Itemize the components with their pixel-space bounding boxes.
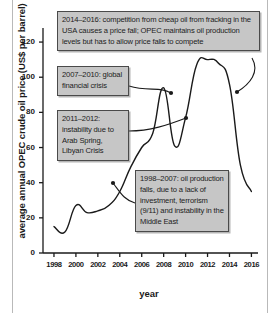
y-tick-label-0: 0 — [11, 248, 35, 257]
oil-price-line-chart: average annual OPEC crude oil price (US$… — [0, 0, 278, 313]
annotation-fracking-price-fall: 2014–2016: competition from cheap oil fr… — [57, 11, 260, 51]
y-tick-label-40: 40 — [11, 178, 35, 187]
annotation-arab-spring-libyan-crisis: 2011–2012: instability due to Arab Sprin… — [57, 110, 129, 161]
x-tick-label-2016: 2016 — [236, 260, 266, 269]
leader-line-fracking — [237, 58, 255, 92]
arrow-head-gfc — [169, 91, 173, 95]
annotation-production-falls-terrorism: 1998–2007: oil production falls, due to … — [135, 170, 229, 232]
arrow-head-arab-spring — [184, 116, 188, 120]
chart-page: average annual OPEC crude oil price (US$… — [0, 0, 278, 313]
x-axis-title: year — [43, 288, 255, 299]
annotation-global-financial-crisis: 2007–2010: global financial crisis — [57, 66, 129, 96]
y-tick-label-60: 60 — [11, 143, 35, 152]
y-tick-label-80: 80 — [11, 107, 35, 116]
arrow-head-production-falls — [111, 181, 115, 185]
leader-line-arab-spring — [129, 118, 186, 131]
y-axis-title: average annual OPEC crude oil price (US$… — [16, 33, 27, 239]
y-tick-label-100: 100 — [11, 72, 35, 81]
leader-line-production-falls — [113, 183, 135, 203]
y-tick-label-120: 120 — [11, 37, 35, 46]
y-tick-label-20: 20 — [11, 213, 35, 222]
arrow-head-fracking — [235, 90, 239, 94]
